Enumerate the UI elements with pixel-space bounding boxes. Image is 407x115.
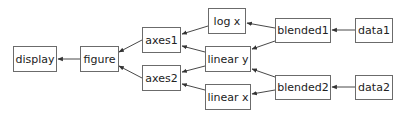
node-axes2: axes2: [142, 65, 181, 91]
node-label: linear y: [207, 53, 248, 66]
node-label: data1: [358, 24, 390, 37]
edge-axes2-to-figure: [119, 66, 142, 78]
node-linearx: linear x: [205, 84, 251, 110]
node-label: blended1: [277, 24, 329, 37]
node-label: linear x: [207, 91, 248, 104]
node-axes1: axes1: [142, 27, 181, 53]
node-label: log x: [214, 15, 241, 28]
node-data2: data2: [355, 75, 393, 100]
node-label: display: [15, 53, 54, 66]
node-blended2: blended2: [275, 75, 331, 100]
edge-blended1-to-lineary: [252, 41, 275, 49]
edge-lineary-to-axes1: [182, 46, 205, 52]
edge-logx-to-axes1: [182, 26, 208, 34]
edge-blended1-to-logx: [247, 23, 275, 28]
edge-lineary-to-axes2: [182, 66, 205, 72]
node-label: figure: [84, 53, 116, 66]
edges-layer: [0, 0, 407, 115]
node-logx: log x: [208, 8, 246, 34]
edge-linearx-to-axes2: [182, 84, 205, 90]
node-blended1: blended1: [275, 18, 331, 43]
node-figure: figure: [80, 46, 119, 72]
node-label: blended2: [277, 81, 329, 94]
node-data1: data1: [355, 18, 393, 43]
edge-axes1-to-figure: [119, 40, 142, 52]
node-display: display: [13, 46, 57, 72]
edge-blended2-to-linearx: [252, 90, 275, 94]
node-label: axes1: [145, 34, 177, 47]
edge-blended2-to-lineary: [252, 69, 275, 77]
node-label: data2: [358, 81, 390, 94]
node-label: axes2: [145, 72, 177, 85]
node-lineary: linear y: [205, 46, 251, 72]
